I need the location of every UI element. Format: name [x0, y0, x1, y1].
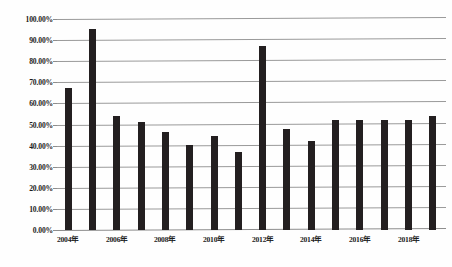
bar: [113, 116, 120, 230]
bar: [283, 129, 290, 230]
bar: [259, 46, 266, 230]
x-tick-label: 2008年: [154, 233, 176, 244]
x-tick-label: 2016年: [349, 233, 371, 244]
bar: [381, 120, 388, 230]
x-tick-label: 2004年: [57, 233, 79, 244]
gridline: [57, 59, 446, 62]
bar: [429, 116, 436, 230]
bar: [332, 120, 339, 230]
x-tick-label: 2010年: [203, 233, 225, 244]
bar: [162, 132, 169, 230]
gridline: [57, 101, 446, 104]
bar: [405, 120, 412, 230]
bar: [186, 145, 193, 230]
x-tick-label: 2014年: [300, 233, 322, 244]
bar: [89, 29, 96, 231]
bar: [138, 122, 145, 230]
bar: [356, 120, 363, 230]
y-axis-tick-marks: [0, 19, 57, 230]
bar: [211, 136, 218, 230]
gridline: [57, 38, 446, 41]
x-axis-tick-labels: 2004年2006年2008年2010年2012年2014年2016年2018年: [57, 233, 446, 253]
x-tick-label: 2006年: [106, 233, 128, 244]
x-tick-label: 2012年: [252, 233, 274, 244]
bar-chart: 100.00%90.00%80.00%70.00%60.00%50.00%40.…: [0, 0, 452, 267]
bar: [65, 88, 72, 230]
x-tick-label: 2018年: [397, 233, 419, 244]
bar: [308, 141, 315, 230]
plot-area: [57, 19, 446, 230]
bar: [235, 152, 242, 230]
gridline: [57, 80, 446, 83]
gridline: [57, 17, 446, 20]
